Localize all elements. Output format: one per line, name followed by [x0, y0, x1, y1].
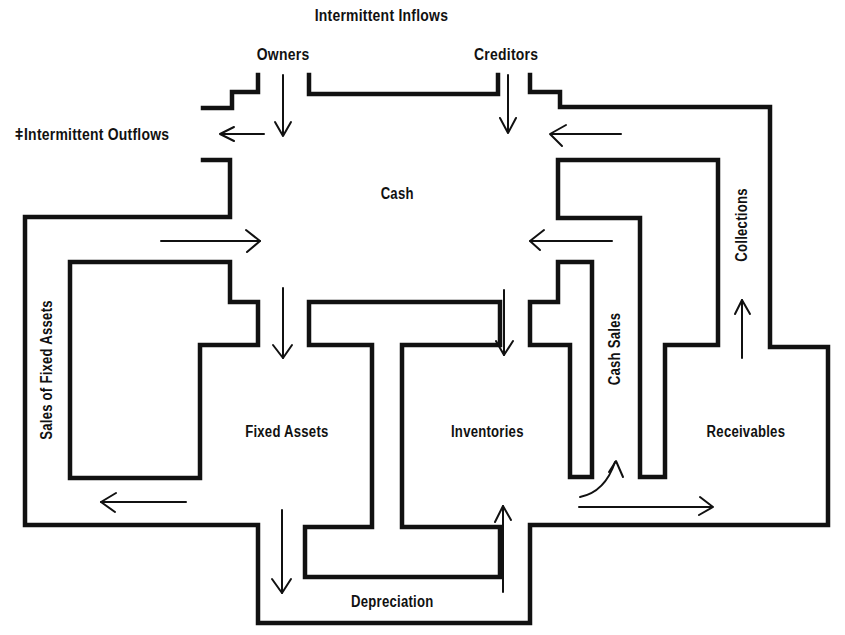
arrow-creditors-to-cash	[500, 75, 516, 133]
arrow-collections-to-cash	[550, 125, 621, 146]
source-creditors-label: Creditors	[474, 46, 538, 63]
node-fixed-assets-label: Fixed Assets	[245, 424, 328, 440]
node-cash-label: Cash	[381, 186, 414, 202]
node-inventories-label: Inventories	[451, 424, 524, 440]
dagger-marker-icon: ǂ	[15, 126, 23, 143]
wall-owners-creditors	[309, 75, 498, 94]
arrow-cash-to-fixed-assets	[273, 288, 292, 358]
arrow-inventories-to-receivables	[579, 497, 713, 515]
channel-sales-of-fixed-assets-label: Sales of Fixed Assets	[39, 300, 55, 440]
wall-left-inner-block	[70, 262, 258, 478]
channel-depreciation-label: Depreciation	[351, 594, 433, 610]
intermittent-outflows-label: Intermittent Outflows	[24, 126, 169, 143]
wall-cash-sales-block	[530, 262, 592, 477]
channel-cash-sales-label: Cash Sales	[607, 313, 623, 385]
arrow-cash-to-outflows	[220, 127, 264, 141]
arrow-cash-sales-to-cash	[530, 230, 612, 250]
arrow-fixed-assets-sale-out	[101, 493, 186, 512]
diagram-title: Intermittent Inflows	[315, 7, 448, 24]
wall-outer-perimeter	[25, 75, 828, 623]
arrow-owners-to-cash	[275, 75, 291, 136]
wall-owners-left	[203, 75, 258, 108]
node-receivables-label: Receivables	[707, 424, 786, 440]
channel-collections-label: Collections	[734, 188, 750, 261]
arrow-receivables-to-collections	[735, 300, 750, 358]
arrow-fixed-assets-to-depreciation	[272, 510, 291, 593]
wall-collections-block	[558, 160, 718, 477]
source-owners-label: Owners	[257, 46, 310, 63]
cash-flow-diagram	[0, 0, 845, 635]
arrow-fixed-asset-sales-to-cash	[161, 230, 260, 252]
